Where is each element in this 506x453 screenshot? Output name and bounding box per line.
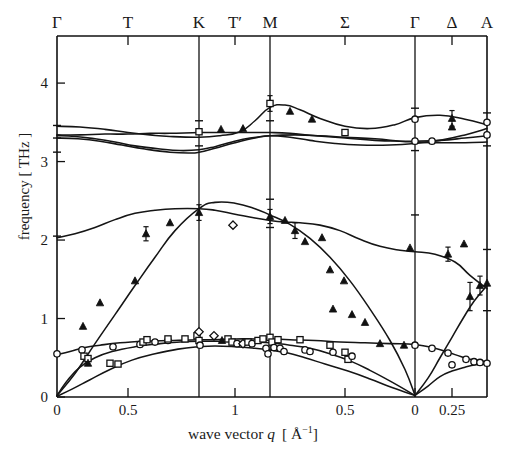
data-point-square	[342, 129, 348, 135]
data-point-square	[182, 336, 188, 342]
data-point-triangle	[329, 305, 336, 312]
dispersion-plot-canvas	[0, 0, 506, 453]
data-point-circle	[477, 359, 483, 365]
triangle-marker	[400, 341, 407, 348]
data-point-square	[327, 342, 333, 348]
circle-marker	[197, 342, 203, 348]
x-axis-title-prefix: wave vector	[188, 425, 267, 442]
top-axis-symbol-3: T′	[217, 14, 253, 31]
y-tick-label-4: 4	[28, 76, 48, 91]
triangle-marker	[406, 244, 413, 251]
data-point-square	[260, 336, 266, 342]
square-marker	[144, 337, 150, 343]
circle-marker	[249, 340, 255, 346]
experimental-data-points	[53, 96, 491, 368]
data-point-circle	[265, 351, 271, 357]
triangle-marker	[301, 238, 308, 245]
data-point-circle	[484, 132, 490, 138]
data-point-circle	[445, 350, 451, 356]
data-point-circle	[152, 339, 158, 345]
top-axis-symbol-8: A	[469, 14, 505, 31]
triangle-marker	[131, 277, 138, 284]
circle-marker	[484, 360, 490, 366]
triangle-marker	[96, 299, 103, 306]
data-point-triangle	[406, 244, 413, 251]
data-point-circle	[330, 349, 336, 355]
curve-acoustic-5-right	[415, 364, 487, 395]
circle-marker	[54, 351, 60, 357]
data-point-triangle	[131, 277, 138, 284]
circle-marker	[429, 345, 435, 351]
circle-marker	[330, 349, 336, 355]
data-point-triangle	[400, 341, 407, 348]
triangle-marker	[340, 277, 347, 284]
data-point-circle	[429, 138, 435, 144]
triangle-marker	[329, 305, 336, 312]
x-axis-unit-close: ]	[313, 425, 318, 442]
circle-marker	[349, 353, 355, 359]
y-axis-title: frequency [ THz ]	[16, 127, 33, 247]
phonon-dispersion-figure: ΓTKT′MΣΓΔA 01234 00.510.500.25 frequency…	[0, 0, 506, 453]
triangle-marker	[79, 322, 86, 329]
data-point-circle	[349, 353, 355, 359]
circle-marker	[484, 132, 490, 138]
data-point-square	[275, 337, 281, 343]
data-point-circle	[54, 351, 60, 357]
square-marker	[115, 361, 121, 367]
data-point-triangle	[96, 299, 103, 306]
data-point-triangle	[361, 318, 368, 325]
triangle-marker	[444, 250, 451, 257]
triangle-marker	[166, 219, 173, 226]
circle-marker	[281, 348, 287, 354]
circle-marker	[307, 348, 313, 354]
triangle-marker	[326, 266, 333, 273]
curve-acoustic-3	[57, 346, 415, 396]
x-axis-unit-exponent: −1	[302, 424, 313, 435]
triangle-marker	[466, 293, 473, 300]
square-marker	[297, 337, 303, 343]
curve-mid-branch-descending	[57, 208, 487, 288]
data-point-triangle	[466, 282, 473, 310]
data-point-circle	[307, 348, 313, 354]
top-axis-symbol-6: Γ	[397, 14, 433, 31]
top-axis-symbol-1: T	[110, 14, 146, 31]
top-axis-symbol-7: Δ	[434, 14, 470, 31]
data-point-triangle	[217, 125, 224, 132]
triangle-marker	[291, 227, 298, 234]
data-point-triangle	[460, 240, 467, 247]
top-axis-symbol-0: Γ	[39, 14, 75, 31]
diamond-marker	[229, 221, 237, 229]
circle-marker	[463, 356, 469, 362]
triangle-marker	[483, 279, 490, 286]
data-point-triangle	[318, 234, 325, 241]
triangle-marker	[286, 107, 293, 114]
triangle-marker	[217, 125, 224, 132]
circle-marker	[412, 138, 418, 144]
data-point-circle	[79, 347, 85, 353]
y-tick-label-1: 1	[28, 312, 48, 327]
square-marker	[342, 349, 348, 355]
data-point-circle	[429, 345, 435, 351]
data-point-triangle	[79, 322, 86, 329]
x-axis-title: wave vector q[ Å−1]	[0, 424, 506, 443]
curve-acoustic-4-right	[415, 286, 487, 396]
dispersion-curves	[57, 105, 487, 397]
square-marker	[165, 336, 171, 342]
square-marker	[267, 100, 273, 106]
circle-marker	[110, 344, 116, 350]
data-point-triangle	[340, 277, 347, 284]
top-axis-symbol-4: M	[252, 14, 288, 31]
data-point-triangle	[326, 266, 333, 273]
data-point-circle	[412, 342, 418, 348]
x-axis-unit-open: [ Å	[282, 425, 302, 442]
data-point-triangle	[301, 238, 308, 245]
data-point-diamond	[210, 332, 218, 340]
data-point-square	[196, 129, 202, 135]
curve-optical-branch-2	[57, 132, 487, 141]
data-point-circle	[197, 342, 203, 348]
triangle-marker	[348, 311, 355, 318]
top-axis-symbol-5: Σ	[327, 14, 363, 31]
data-point-square	[107, 360, 113, 366]
circle-marker	[477, 359, 483, 365]
circle-marker	[429, 138, 435, 144]
